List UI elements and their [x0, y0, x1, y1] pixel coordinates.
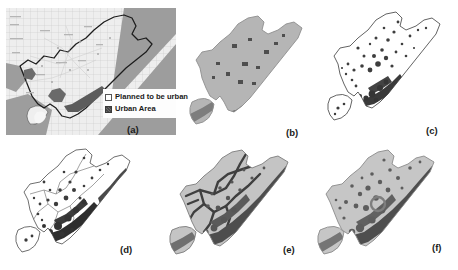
panel-c-outline-seeds — [326, 8, 456, 130]
panel-e-filled-network — [168, 144, 308, 260]
caption-panel-c: (c) — [426, 126, 438, 136]
urban-square-icon — [105, 106, 112, 113]
region-outline — [24, 149, 130, 244]
panel-b-map — [186, 10, 318, 132]
island-outline — [328, 94, 352, 120]
caption-panel-e: (e) — [283, 245, 295, 255]
legend-item-planned: Planned to be urban — [105, 91, 176, 103]
map-legend: Planned to be urban Urban Area — [103, 89, 176, 118]
panel-e-map — [168, 144, 308, 260]
multi-panel-map-figure: Planned to be urban Urban Area (a) (b) (… — [0, 0, 458, 270]
panel-c-map — [326, 8, 456, 130]
caption-panel-f: (f) — [432, 243, 442, 253]
caption-panel-a: (a) — [127, 125, 139, 135]
legend-label-urban: Urban Area — [115, 105, 156, 113]
legend-item-urban: Urban Area — [105, 103, 176, 115]
island-outline — [16, 226, 40, 252]
panel-d-outline-network-growth — [14, 146, 146, 258]
caption-panel-b: (b) — [286, 128, 298, 138]
planned-square-icon — [105, 94, 112, 101]
panel-b-filled-region — [186, 10, 318, 132]
caption-panel-d: (d) — [120, 245, 132, 255]
legend-label-planned: Planned to be urban — [115, 93, 188, 101]
panel-d-map — [14, 146, 146, 258]
